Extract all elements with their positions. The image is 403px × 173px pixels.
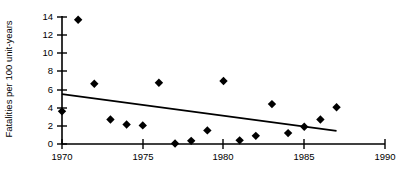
data-point <box>155 79 163 87</box>
data-point <box>268 100 276 108</box>
data-point-group <box>58 16 341 148</box>
x-tick-label: 1970 <box>51 151 72 162</box>
data-point <box>219 77 227 85</box>
y-tick-label: 2 <box>48 120 53 131</box>
x-axis-ticks: 1970 1975 1980 1985 1990 <box>51 139 395 162</box>
chart-svg: Fatalities per 100 unit-years 0 2 4 6 8 … <box>0 0 403 173</box>
y-axis-title: Fatalities per 100 unit-years <box>3 20 14 137</box>
y-tick-label: 10 <box>42 47 53 58</box>
data-point <box>139 121 147 129</box>
x-tick-label: 1985 <box>293 151 314 162</box>
y-tick-label: 12 <box>42 29 53 40</box>
data-point <box>122 120 130 128</box>
y-tick-label: 0 <box>48 138 53 149</box>
y-axis-ticks: 0 2 4 6 8 10 12 14 <box>42 11 67 149</box>
data-point <box>284 129 292 137</box>
data-point <box>90 79 98 87</box>
y-tick-label: 8 <box>48 65 53 76</box>
data-point <box>316 115 324 123</box>
y-tick-label: 14 <box>42 11 53 22</box>
x-tick-label: 1980 <box>212 151 233 162</box>
data-point <box>252 132 260 140</box>
data-point <box>171 139 179 147</box>
data-point <box>300 123 308 131</box>
data-point <box>74 16 82 24</box>
x-tick-label: 1990 <box>374 151 395 162</box>
trend-line <box>62 94 337 131</box>
data-point <box>203 126 211 134</box>
data-point <box>106 115 114 123</box>
data-point <box>332 103 340 111</box>
scatter-chart: Fatalities per 100 unit-years 0 2 4 6 8 … <box>0 0 403 173</box>
x-tick-label: 1975 <box>132 151 153 162</box>
y-tick-label: 4 <box>48 102 53 113</box>
y-tick-label: 6 <box>48 84 53 95</box>
